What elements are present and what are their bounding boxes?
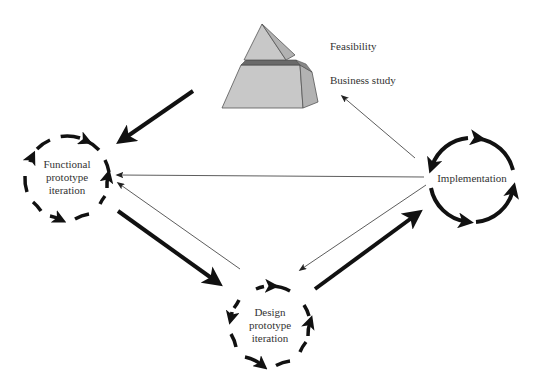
functional-prototype-label: Functional prototype iteration <box>27 158 107 197</box>
functional-label-line-2: prototype <box>27 171 107 184</box>
arrow-implementation-to-functional <box>117 175 424 177</box>
functional-label-line-1: Functional <box>27 158 107 171</box>
business-study-label: Business study <box>330 74 396 87</box>
arrow-implementation-to-design <box>300 185 426 270</box>
arrow-business-to-functional <box>122 91 193 140</box>
design-label-line-3: iteration <box>230 332 310 345</box>
pyramid-icon <box>222 24 318 108</box>
feasibility-label: Feasibility <box>330 40 376 53</box>
design-label-line-2: prototype <box>230 319 310 332</box>
design-label-line-1: Design <box>230 306 310 319</box>
design-prototype-label: Design prototype iteration <box>230 306 310 345</box>
functional-label-line-3: iteration <box>27 184 107 197</box>
implementation-label: Implementation <box>426 172 518 185</box>
arrow-implementation-to-business <box>342 96 415 158</box>
arrow-functional-to-design <box>118 211 217 282</box>
